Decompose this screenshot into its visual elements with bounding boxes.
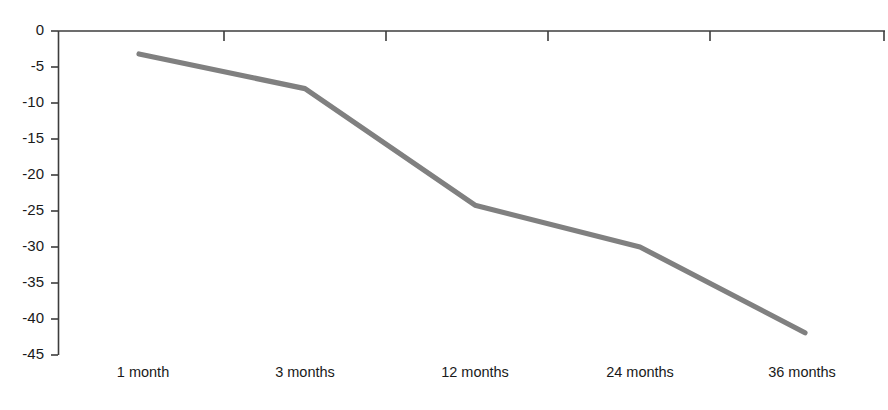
xtick-label-3-months: 3 months [245, 364, 365, 380]
ytick-label-5: -25 [0, 201, 44, 218]
line-chart: 0 -5 -10 -15 -20 -25 -30 -35 -40 -45 1 m… [0, 0, 888, 410]
x-tick-marks [224, 31, 884, 41]
ytick-label-8: -40 [0, 309, 44, 326]
data-series-line [139, 54, 805, 333]
ytick-label-6: -30 [0, 237, 44, 254]
ytick-label-9: -45 [0, 345, 44, 362]
ytick-label-4: -20 [0, 165, 44, 182]
ytick-label-3: -15 [0, 129, 44, 146]
ytick-label-0: 0 [0, 21, 44, 38]
xtick-label-36-months: 36 months [742, 364, 862, 380]
plot-area [0, 0, 888, 410]
ytick-label-2: -10 [0, 93, 44, 110]
y-tick-marks [51, 31, 58, 355]
xtick-label-1-month: 1 month [83, 364, 203, 380]
xtick-label-24-months: 24 months [580, 364, 700, 380]
ytick-label-1: -5 [0, 57, 44, 74]
ytick-label-7: -35 [0, 273, 44, 290]
xtick-label-12-months: 12 months [415, 364, 535, 380]
